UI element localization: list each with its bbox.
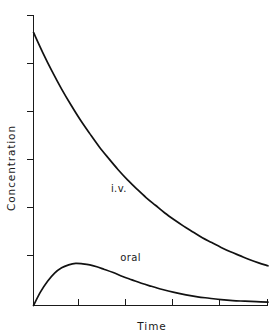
- series-label-oral: oral: [120, 252, 141, 263]
- chart-figure: i.v. oral Time Concentration: [0, 0, 277, 335]
- curve-oral: [34, 263, 269, 305]
- series-label-iv: i.v.: [111, 183, 127, 194]
- y-axis-ticks: [27, 16, 34, 256]
- x-axis-ticks: [79, 299, 268, 306]
- curve-intravenous: [34, 32, 269, 265]
- concentration-time-plot: i.v. oral Time Concentration: [0, 0, 277, 335]
- y-axis-title: Concentration: [5, 125, 17, 211]
- x-axis-title: Time: [136, 320, 166, 332]
